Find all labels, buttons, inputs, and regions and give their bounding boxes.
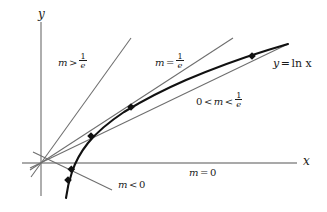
label-slope-equals-one-over-e: m= 1 e	[155, 52, 184, 70]
label-zero-operator: =	[198, 167, 209, 178]
label-negative-operator: <	[127, 179, 138, 190]
label-slope-between-zero-and-one-over-e: 0<m< 1 e	[196, 91, 243, 109]
label-shallow-variable: m	[214, 96, 223, 107]
diagram-canvas	[0, 0, 327, 212]
fraction-denominator: e	[235, 99, 242, 108]
fraction-one-over-e: 1 e	[79, 52, 86, 70]
label-curve-operator: =	[279, 57, 291, 70]
x-axis-label: x	[303, 155, 310, 167]
label-curve-equation: y=ln x	[273, 58, 312, 69]
fraction-numerator: 1	[176, 52, 183, 60]
label-slope-greater-than-one-over-e: m> 1 e	[58, 52, 87, 70]
label-steep-operator: >	[67, 57, 78, 68]
label-shallow-operator-first: <	[202, 96, 213, 107]
label-shallow-operator-second: <	[223, 96, 234, 107]
logarithm-tangent-diagram: y x m> 1 e m= 1 e 0<m< 1 e y=ln x m=0 m<…	[0, 0, 327, 212]
fraction-one-over-e: 1 e	[235, 91, 242, 109]
y-axis-label: y	[38, 8, 45, 20]
fraction-one-over-e: 1 e	[176, 52, 183, 70]
fraction-denominator: e	[79, 60, 86, 69]
label-tangent-operator: =	[164, 57, 175, 68]
fraction-numerator: 1	[235, 91, 242, 99]
marked-points-group	[64, 52, 256, 184]
fraction-numerator: 1	[79, 52, 86, 60]
fraction-denominator: e	[176, 60, 183, 69]
label-slope-zero: m=0	[189, 168, 216, 178]
point-marker	[87, 132, 95, 140]
label-slope-negative: m<0	[118, 180, 145, 190]
label-negative-rhs: 0	[139, 179, 145, 190]
label-zero-rhs: 0	[210, 167, 216, 178]
axes-group	[22, 22, 297, 196]
label-curve-rhs: ln x	[291, 57, 311, 70]
